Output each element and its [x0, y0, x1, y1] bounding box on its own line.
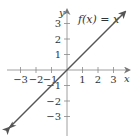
- function-graph: −3 −2 −1 1 2 3 3 2 1 −1 −2 −3 y x f(x) =…: [0, 0, 137, 140]
- y-tick-label: −3: [46, 111, 61, 122]
- x-tick-label: 2: [95, 74, 101, 85]
- x-tick-label: 1: [79, 74, 85, 85]
- y-tick-label: 2: [55, 34, 61, 45]
- y-tick-label: 1: [55, 49, 61, 60]
- y-axis-label: y: [58, 7, 65, 18]
- x-tick-label: 3: [110, 74, 116, 85]
- x-tick-label: −3: [13, 74, 28, 85]
- y-tick-label: 3: [55, 18, 61, 29]
- x-tick-label: −2: [29, 74, 44, 85]
- x-axis-label: x: [124, 73, 130, 84]
- y-tick-label: −2: [46, 96, 61, 107]
